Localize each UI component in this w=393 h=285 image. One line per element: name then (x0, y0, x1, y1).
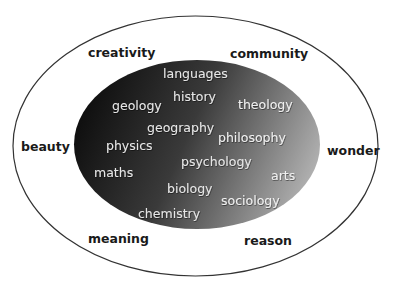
subject-label-geography: geography (147, 120, 215, 135)
subject-label-geology: geology (112, 98, 162, 113)
outer-label-wonder: wonder (327, 143, 380, 158)
subject-label-history: history (173, 89, 217, 104)
subject-label-philosophy: philosophy (218, 130, 286, 145)
outer-label-beauty: beauty (21, 139, 70, 154)
subjects-values-diagram: creativitycommunitybeautywondermeaningre… (0, 0, 393, 285)
outer-label-community: community (230, 46, 308, 61)
subject-label-languages: languages (163, 66, 228, 81)
subject-label-theology: theology (238, 97, 293, 112)
outer-label-meaning: meaning (88, 231, 149, 246)
subject-label-maths: maths (94, 165, 133, 180)
subject-label-sociology: sociology (221, 193, 280, 208)
subject-label-biology: biology (167, 181, 213, 196)
subject-label-arts: arts (271, 168, 295, 183)
subject-label-psychology: psychology (181, 154, 252, 169)
subject-label-chemistry: chemistry (138, 206, 201, 221)
subject-label-physics: physics (106, 138, 153, 153)
outer-label-creativity: creativity (88, 45, 155, 60)
outer-label-reason: reason (244, 233, 292, 248)
